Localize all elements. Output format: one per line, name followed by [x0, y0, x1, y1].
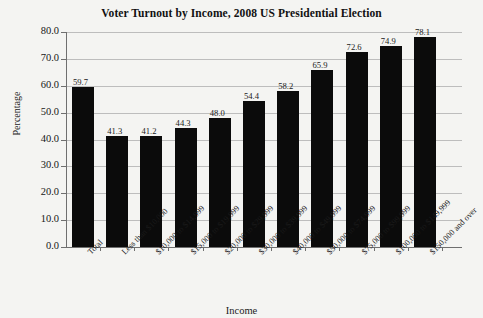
y-axis-tick [61, 193, 67, 194]
y-axis-tick-label: 30.0 [3, 159, 59, 170]
x-axis-tick-label-wrap: $10,000 to $14,999 [154, 250, 155, 251]
x-axis-tick-label-wrap: $40,000 to $49,999 [291, 250, 292, 251]
gridline [66, 86, 462, 87]
x-axis-tick-label-wrap: $75,000 to $99,999 [360, 250, 361, 251]
y-axis-tick-label: 50.0 [3, 106, 59, 117]
y-axis-tick-label: 10.0 [3, 213, 59, 224]
y-axis-tick-label: 70.0 [3, 52, 59, 63]
bar-value-label: 78.1 [415, 27, 430, 37]
gridline [66, 59, 462, 60]
y-axis-tick-label: 80.0 [3, 25, 59, 36]
bar-value-label: 41.2 [141, 126, 156, 136]
y-axis-tick-label: 20.0 [3, 186, 59, 197]
y-axis-tick [61, 32, 67, 33]
bar-value-label: 58.2 [278, 81, 293, 91]
bar-value-label: 74.9 [381, 36, 396, 46]
y-axis-tick-labels: 80.070.060.050.040.030.020.010.00.0 [0, 0, 59, 318]
bar[interactable] [72, 87, 94, 247]
y-axis-tick [61, 59, 67, 60]
bar-value-label: 59.7 [73, 77, 88, 87]
bar-value-label: 54.4 [244, 91, 259, 101]
bar-value-label: 44.3 [176, 118, 191, 128]
bar-chart: Voter Turnout by Income, 2008 US Preside… [0, 0, 483, 318]
x-axis-title: Income [0, 305, 483, 316]
x-axis-tick-label-wrap: $150,000 and over [428, 250, 429, 251]
y-axis-tick [61, 86, 67, 87]
y-axis-tick [61, 113, 67, 114]
x-axis-tick-label-wrap: $50,000 to $74,999 [325, 250, 326, 251]
gridline [66, 32, 462, 33]
bar-value-label: 48.0 [210, 108, 225, 118]
y-axis-tick-label: 60.0 [3, 79, 59, 90]
x-axis-tick-label-wrap: $15,000 to $19,999 [189, 250, 190, 251]
y-axis-tick [61, 220, 67, 221]
chart-title: Voter Turnout by Income, 2008 US Preside… [0, 7, 483, 19]
x-axis-tick-label-wrap: $100,000 to $149,999 [394, 250, 395, 251]
y-axis-tick [61, 247, 67, 248]
y-axis-tick [61, 140, 67, 141]
x-axis-tick-label-wrap: Less than $10,000 [120, 250, 121, 251]
bar-value-label: 41.3 [107, 126, 122, 136]
y-axis-tick-label: 40.0 [3, 133, 59, 144]
bar-value-label: 65.9 [312, 60, 327, 70]
x-axis-tick-label-wrap: $20,000 to $29,999 [223, 250, 224, 251]
bar[interactable] [106, 136, 128, 247]
bar-value-label: 72.6 [347, 42, 362, 52]
y-axis-tick [61, 166, 67, 167]
x-axis-tick-label-wrap: $30,000 to $39,999 [257, 250, 258, 251]
y-axis-tick-label: 0.0 [3, 240, 59, 251]
x-axis-tick-label-wrap: Total [86, 250, 87, 251]
